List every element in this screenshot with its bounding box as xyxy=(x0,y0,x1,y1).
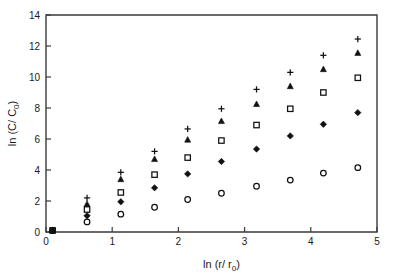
y-tick-label: 10 xyxy=(29,72,41,83)
series-group-open-square xyxy=(50,75,361,233)
data-point xyxy=(84,207,89,212)
axis-ticks xyxy=(46,15,377,232)
data-point xyxy=(287,83,293,89)
data-point xyxy=(185,137,191,143)
plot-area: 01234502468101214 ln (r/ r0)ln (C/ C0) xyxy=(0,0,393,275)
y-tick-label: 0 xyxy=(34,227,40,238)
data-point xyxy=(288,106,293,111)
data-point xyxy=(254,101,260,107)
data-point xyxy=(218,106,224,112)
y-tick-label: 12 xyxy=(29,41,41,52)
data-point xyxy=(84,213,90,219)
data-point xyxy=(321,170,327,176)
series-group-plus xyxy=(50,36,361,234)
data-point xyxy=(287,133,293,139)
data-point xyxy=(355,36,361,42)
data-point xyxy=(321,90,326,95)
data-point xyxy=(254,122,259,127)
data-point xyxy=(152,156,158,162)
axis-titles: ln (r/ r0)ln (C/ C0) xyxy=(6,101,240,273)
data-point xyxy=(185,197,191,203)
data-point xyxy=(151,185,157,191)
y-tick-label: 4 xyxy=(34,165,40,176)
data-point xyxy=(152,172,157,177)
data-point xyxy=(84,201,90,207)
data-point xyxy=(355,50,361,56)
data-point xyxy=(152,204,158,210)
data-point xyxy=(218,118,224,124)
x-axis-title: ln (r/ r0) xyxy=(203,258,240,273)
x-tick-label: 5 xyxy=(374,236,380,247)
y-axis-title: ln (C/ C0) xyxy=(6,101,21,146)
x-tick-label: 2 xyxy=(176,236,182,247)
data-point xyxy=(118,190,123,195)
y-tick-label: 8 xyxy=(34,103,40,114)
x-tick-label: 0 xyxy=(43,236,49,247)
data-point xyxy=(219,138,224,143)
data-point xyxy=(287,177,293,183)
data-point xyxy=(287,69,293,75)
scatter-chart: 01234502468101214 ln (r/ r0)ln (C/ C0) xyxy=(0,0,393,275)
axis-tick-labels: 01234502468101214 xyxy=(29,10,380,248)
x-tick-label: 4 xyxy=(308,236,314,247)
data-point xyxy=(151,148,157,154)
data-point xyxy=(320,121,326,127)
data-point xyxy=(253,86,259,92)
data-point xyxy=(184,171,190,177)
data-point xyxy=(84,219,90,225)
data-point xyxy=(355,75,360,80)
series-group-filled-triangle xyxy=(50,50,361,233)
data-point xyxy=(355,109,361,115)
series-group-filled-diamond xyxy=(49,109,361,233)
data-point xyxy=(185,126,191,132)
data-point xyxy=(118,176,124,182)
data-point xyxy=(355,165,361,171)
data-point xyxy=(254,183,260,189)
y-tick-label: 2 xyxy=(34,196,40,207)
data-point xyxy=(185,155,190,160)
x-tick-label: 1 xyxy=(109,236,115,247)
data-point xyxy=(320,66,326,72)
series-group-open-circle xyxy=(50,165,361,233)
data-point xyxy=(218,158,224,164)
y-tick-label: 14 xyxy=(29,10,41,21)
data-point xyxy=(219,190,225,196)
data-points xyxy=(49,36,361,234)
data-point xyxy=(118,199,124,205)
data-point xyxy=(320,52,326,58)
data-point xyxy=(118,169,124,175)
y-tick-label: 6 xyxy=(34,134,40,145)
data-point xyxy=(253,146,259,152)
data-point xyxy=(84,195,90,201)
axis-frame xyxy=(46,15,377,232)
x-tick-label: 3 xyxy=(242,236,248,247)
data-point xyxy=(118,211,124,217)
